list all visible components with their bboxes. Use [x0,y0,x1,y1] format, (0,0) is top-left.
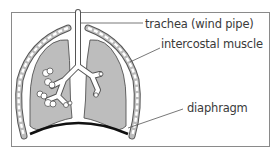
label-diaphragm: diaphragm [187,101,248,115]
label-trachea: trachea (wind pipe) [145,17,254,31]
label-intercostal-muscle: intercostal muscle [161,37,263,51]
